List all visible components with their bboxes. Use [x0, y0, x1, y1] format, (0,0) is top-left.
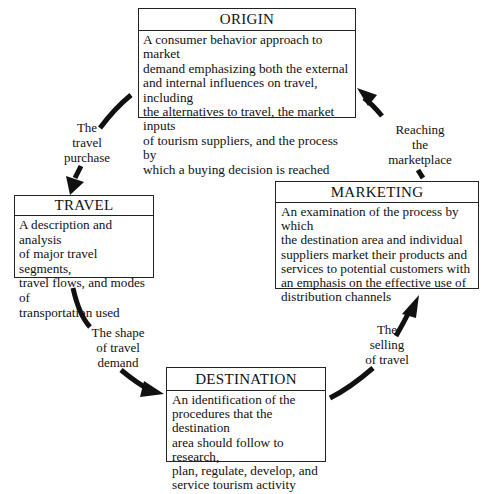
arrow-destination-to-marketing-lower: [330, 368, 373, 398]
arrowhead-origin: [357, 88, 377, 106]
stage-destination: DESTINATION An identification of the pro…: [166, 367, 326, 462]
arrow-marketing-to-origin-lower: [418, 170, 423, 178]
link-label-travel-purchase: The travel purchase: [52, 120, 122, 165]
arrowhead-travel: [66, 176, 84, 195]
arrowhead-destination: [140, 381, 164, 397]
stage-travel-title: TRAVEL: [15, 196, 153, 216]
stage-travel-description: A description and analysis of major trav…: [15, 216, 153, 322]
stage-marketing: MARKETING An examination of the process …: [275, 181, 479, 289]
stage-travel: TRAVEL A description and analysis of maj…: [14, 195, 154, 278]
stage-destination-title: DESTINATION: [167, 368, 325, 391]
link-label-shape-of-travel-demand: The shape of travel demand: [78, 325, 158, 370]
stage-marketing-title: MARKETING: [276, 182, 478, 203]
stage-marketing-description: An examination of the process by which t…: [276, 203, 478, 306]
arrow-origin-to-travel-lower: [75, 166, 81, 178]
link-label-selling-of-travel: The selling of travel: [352, 322, 422, 367]
stage-origin-description: A consumer behavior approach to market d…: [139, 31, 355, 179]
stage-origin: ORIGIN A consumer behavior approach to m…: [138, 8, 356, 118]
stage-origin-title: ORIGIN: [139, 9, 355, 31]
link-label-reaching-marketplace: Reaching the marketplace: [370, 122, 470, 167]
stage-destination-description: An identification of the procedures that…: [167, 391, 325, 494]
